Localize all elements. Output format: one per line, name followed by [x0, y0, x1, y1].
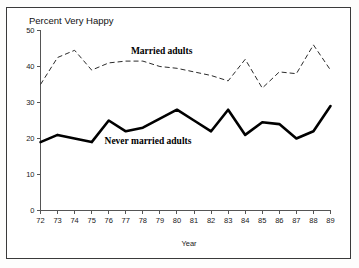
x-tick-label: 79 [156, 216, 164, 225]
x-tick-label: 81 [190, 216, 198, 225]
axes [41, 31, 331, 211]
chart-title: Percent Very Happy [29, 15, 114, 26]
line-chart: 0102030405072737475767778798081828384858… [0, 0, 359, 268]
x-tick-label: 85 [258, 216, 266, 225]
x-tick-label: 73 [53, 216, 61, 225]
tick-labels: 0102030405072737475767778798081828384858… [26, 26, 335, 225]
x-tick-label: 86 [275, 216, 283, 225]
y-tick-label: 50 [26, 26, 34, 35]
x-tick-label: 72 [36, 216, 44, 225]
y-tick-label: 10 [26, 170, 34, 179]
series-annotations: Married adultsNever married adults [105, 46, 193, 146]
x-axis-label: Year [181, 239, 197, 248]
x-tick-label: 89 [326, 216, 334, 225]
data-series [41, 45, 331, 142]
figure-container: 0102030405072737475767778798081828384858… [0, 0, 359, 268]
y-tick-label: 30 [26, 98, 34, 107]
axis-lines [41, 31, 331, 211]
x-tick-label: 84 [241, 216, 249, 225]
x-tick-label: 75 [88, 216, 96, 225]
x-tick-label: 74 [70, 216, 78, 225]
x-tick-label: 83 [224, 216, 232, 225]
x-tick-label: 87 [292, 216, 300, 225]
y-tick-label: 0 [30, 206, 34, 215]
x-tick-label: 78 [139, 216, 147, 225]
x-tick-label: 77 [122, 216, 130, 225]
x-tick-label: 76 [105, 216, 113, 225]
x-tick-label: 82 [207, 216, 215, 225]
y-tick-label: 40 [26, 62, 34, 71]
x-tick-label: 88 [309, 216, 317, 225]
series-label-never-married-adults: Never married adults [105, 136, 192, 146]
y-tick-label: 20 [26, 134, 34, 143]
series-label-married-adults: Married adults [131, 46, 193, 56]
x-tick-label: 80 [173, 216, 181, 225]
